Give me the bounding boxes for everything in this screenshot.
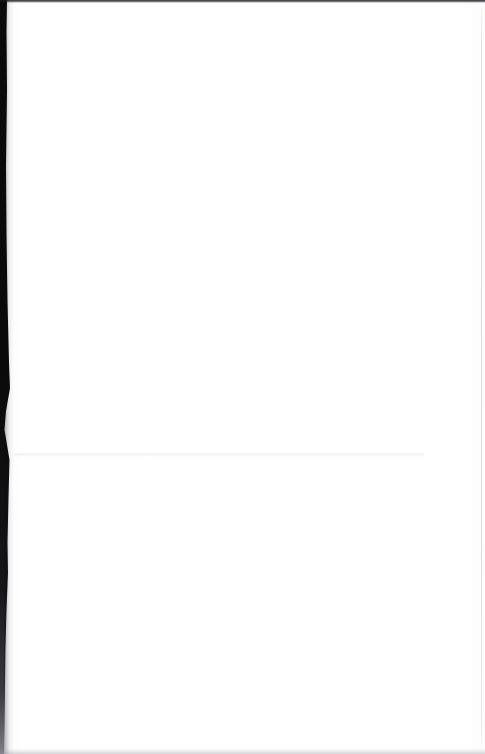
page-content-area: [18, 6, 478, 748]
scanned-page: [0, 0, 485, 754]
